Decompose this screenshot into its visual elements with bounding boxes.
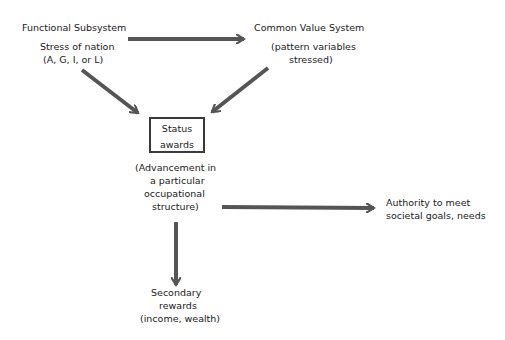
arrow-functional-to-status: [82, 70, 138, 113]
functional-subsystem-title: Functional Subsystem: [22, 22, 126, 34]
authority-line2: societal goals, needs: [386, 210, 486, 222]
advancement-line1: (Advancement in: [135, 162, 216, 174]
arrow-advancement-to-authority: [222, 207, 374, 208]
secondary-rewards-line1: Secondary: [151, 287, 201, 299]
arrow-common-value-to-status: [212, 68, 268, 112]
status-awards-line1: Status: [151, 122, 203, 135]
secondary-rewards-line2: rewards: [159, 300, 197, 312]
authority-line1: Authority to meet: [386, 197, 470, 209]
common-value-system-title: Common Value System: [254, 22, 364, 34]
pattern-variables-label: (pattern variables: [271, 41, 356, 53]
status-awards-box: Status awards: [149, 117, 205, 153]
secondary-rewards-line3: (income, wealth): [140, 313, 220, 325]
advancement-line3: occupational: [144, 188, 205, 200]
stress-of-nation-label: Stress of nation: [40, 41, 114, 53]
advancement-line4: structure): [152, 201, 199, 213]
advancement-line2: a particular: [150, 175, 205, 187]
stressed-label: stressed): [289, 54, 333, 66]
status-awards-line2: awards: [151, 138, 203, 151]
agil-label: (A, G, I, or L): [43, 54, 103, 66]
